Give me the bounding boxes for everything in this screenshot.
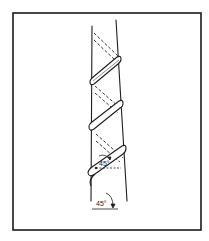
figure-frame	[13, 13, 201, 230]
back-strand-1a	[94, 33, 118, 56]
angle-upper-vertex-dot	[95, 167, 97, 169]
helical-wrap-diagram: 45° 45°	[0, 0, 209, 241]
band-back-strands	[94, 33, 123, 162]
front-band-1	[90, 56, 121, 84]
front-band-1-inner	[93, 60, 119, 81]
angle-label-lower: 45°	[96, 200, 107, 207]
angle-label-upper: 45°	[99, 160, 110, 167]
front-band-2	[89, 100, 123, 130]
angle-lower-arrowhead	[111, 204, 115, 208]
